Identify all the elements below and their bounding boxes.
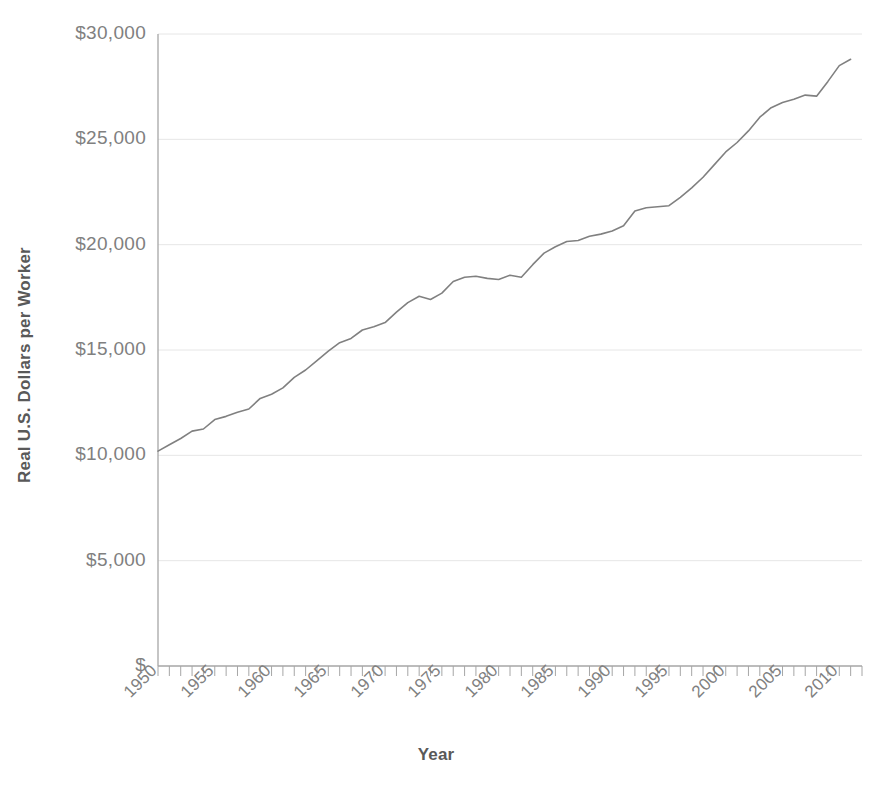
y-tick-label: $5,000 (86, 549, 146, 571)
gridlines-group (158, 34, 862, 561)
data-series-line (158, 59, 851, 451)
chart-container: $$5,000$10,000$15,000$20,000$25,000$30,0… (0, 0, 872, 788)
y-axis-title: Real U.S. Dollars per Worker (15, 247, 35, 483)
y-tick-label: $10,000 (75, 443, 146, 465)
y-tick-label: $30,000 (75, 22, 146, 44)
y-tick-label: $20,000 (75, 233, 146, 255)
y-tick-label: $25,000 (75, 127, 146, 149)
y-tick-label: $15,000 (75, 338, 146, 360)
y-axis-title-wrapper: Real U.S. Dollars per Worker (10, 200, 40, 530)
x-axis-title: Year (0, 745, 872, 765)
